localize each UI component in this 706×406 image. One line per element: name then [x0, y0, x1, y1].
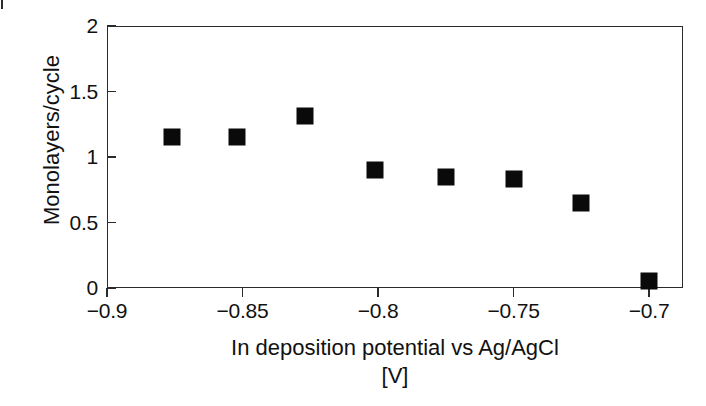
x-axis-tick [513, 288, 515, 297]
figure-canvas: 00.511.52 −0.9−0.85−0.8−0.75−0.7 Monolay… [0, 0, 706, 406]
x-axis-tick [377, 288, 379, 297]
data-point-marker [164, 129, 181, 146]
x-axis-tick [242, 288, 244, 297]
x-axis-unit-text: [V] [107, 362, 683, 390]
x-axis-tick-label: −0.7 [589, 300, 706, 322]
x-axis-tick-label: −0.9 [47, 300, 167, 322]
scan-artifact-mark [1, 0, 3, 9]
x-axis-tick-label: −0.8 [318, 300, 438, 322]
x-axis-title-text: In deposition potential vs Ag/AgCl [231, 335, 559, 360]
data-markers-layer [107, 26, 683, 288]
x-axis-tick-label: −0.85 [183, 300, 303, 322]
data-point-marker [641, 273, 658, 290]
data-point-marker [229, 129, 246, 146]
x-axis-tick [106, 288, 108, 297]
x-axis-tick-label: −0.75 [454, 300, 574, 322]
y-axis-tick-label: 0 [38, 277, 98, 298]
data-point-marker [505, 171, 522, 188]
y-axis-title: Monolayers/cycle [40, 10, 64, 270]
x-axis-title-block: In deposition potential vs Ag/AgCl [V] [107, 334, 683, 390]
data-point-marker [437, 168, 454, 185]
data-point-marker [573, 194, 590, 211]
data-point-marker [367, 162, 384, 179]
data-point-marker [296, 108, 313, 125]
